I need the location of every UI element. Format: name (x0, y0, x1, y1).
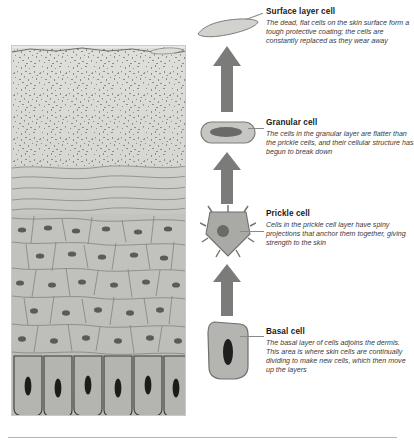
basal-cell-figure (204, 318, 252, 382)
leader-line-granular (248, 128, 264, 129)
skin-cross-section-panel (11, 45, 186, 416)
callout-desc-granular: The cells in the granular layer are flat… (266, 130, 414, 158)
callout-title-surface: Surface layer cell (266, 7, 414, 17)
arrow-granular-to-surface-icon (210, 44, 244, 114)
callout-granular-cell: Granular cell The cells in the granular … (266, 118, 414, 157)
callout-desc-basal: The basal layer of cells adjoins the der… (266, 339, 414, 376)
callout-title-basal: Basal cell (266, 327, 414, 337)
callout-desc-surface: The dead, flat cells on the skin surface… (266, 19, 414, 47)
callout-desc-prickle: Cells in the prickle cell layer have spi… (266, 221, 414, 249)
footer-divider (8, 437, 397, 438)
granular-cell-figure (199, 116, 257, 148)
prickle-cell-figure (200, 204, 256, 262)
skin-cross-section-linework (12, 46, 186, 416)
callout-prickle-cell: Prickle cell Cells in the prickle cell l… (266, 209, 414, 248)
arrow-basal-to-prickle-icon (210, 262, 244, 318)
leader-line-prickle (240, 231, 264, 232)
leader-line-basal (240, 336, 264, 337)
callout-basal-cell: Basal cell The basal layer of cells adjo… (266, 327, 414, 375)
callout-title-prickle: Prickle cell (266, 209, 414, 219)
callout-title-granular: Granular cell (266, 118, 414, 128)
callout-surface-layer-cell: Surface layer cell The dead, flat cells … (266, 7, 414, 46)
arrow-prickle-to-granular-icon (210, 150, 244, 206)
